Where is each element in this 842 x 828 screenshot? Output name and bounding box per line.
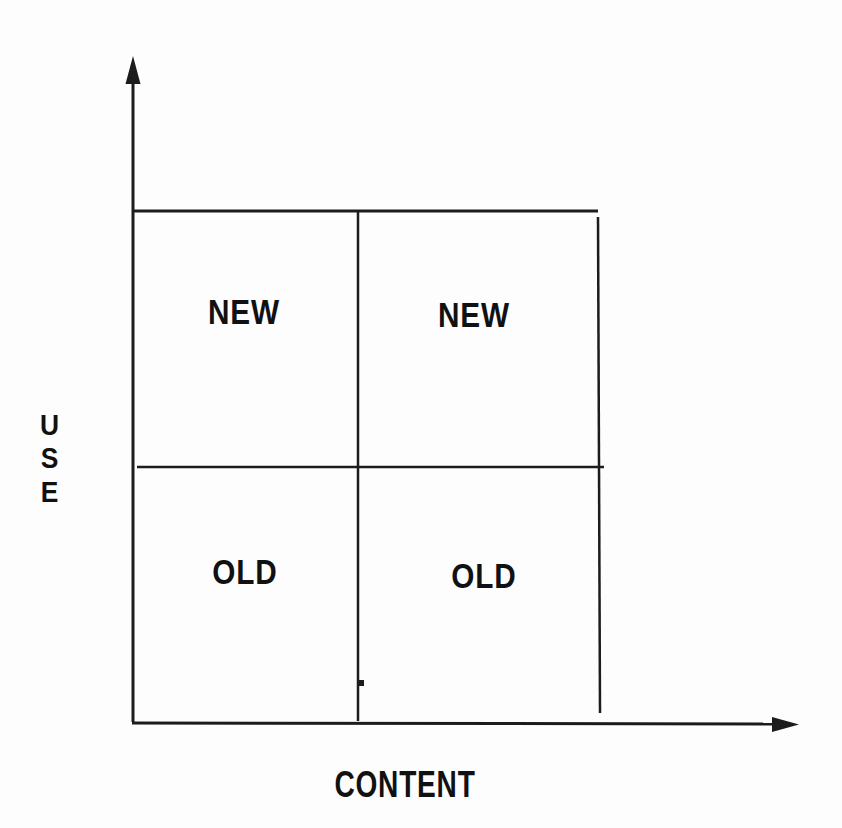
quadrant-diagram: NEW NEW OLD OLD USE CONTENT — [0, 0, 842, 828]
x-axis-label: CONTENT — [334, 764, 475, 806]
y-axis-label: USE — [34, 408, 64, 509]
y-axis-arrowhead-icon — [126, 56, 141, 84]
x-axis-arrowhead-icon — [772, 717, 799, 732]
quadrant-label-bottom-right: OLD — [451, 556, 516, 596]
grid-right-line — [598, 217, 600, 713]
x-axis-line — [132, 723, 780, 724]
axes-and-grid — [0, 0, 842, 828]
quadrant-label-top-left: NEW — [208, 292, 280, 332]
scan-artifact-dot — [359, 680, 364, 686]
quadrant-label-top-right: NEW — [438, 295, 510, 335]
quadrant-label-bottom-left: OLD — [212, 552, 277, 592]
